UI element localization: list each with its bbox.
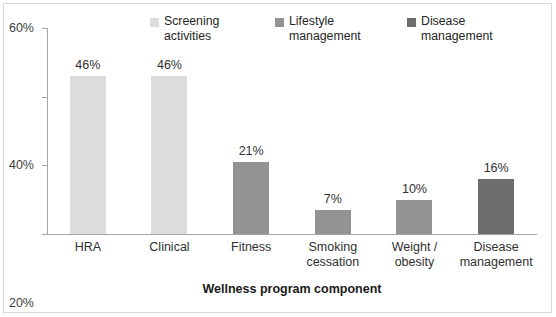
bar-value-label: 10% [402,182,427,196]
bar-slot: 16% [455,28,537,234]
legend-swatch-disease-management [407,18,416,27]
bar[interactable] [151,76,187,234]
x-axis-line [47,234,537,235]
bar-chart: Screening activities Lifestyle managemen… [0,0,556,317]
x-axis-labels: HRAClinicalFitnessSmoking cessationWeigh… [47,240,537,280]
bar-value-label: 46% [75,58,100,72]
bar-value-label: 21% [239,144,264,158]
bar[interactable] [396,200,432,234]
bar-slot: 46% [129,28,211,234]
y-axis-tick: 0% [42,234,47,235]
y-axis-tick-label: 20% [9,296,34,310]
bar-slot: 7% [292,28,374,234]
bar-slot: 21% [210,28,292,234]
bar[interactable] [233,162,269,234]
bars-layer: 46%46%21%7%10%16% [47,28,537,234]
bar-value-label: 16% [484,161,509,175]
bar-slot: 46% [47,28,129,234]
x-axis-category-label: Disease management [455,240,537,270]
x-axis-category-label: Smoking cessation [292,240,374,270]
y-axis-tick-label: 60% [9,21,34,35]
x-axis-category-label: Clinical [129,240,211,255]
bar-value-label: 46% [157,58,182,72]
plot-area: 0%20%40%60% 46%46%21%7%10%16% [47,28,537,234]
bar[interactable] [70,76,106,234]
bar-value-label: 7% [324,192,342,206]
x-axis-category-label: Weight / obesity [374,240,456,270]
x-axis-category-label: Fitness [210,240,292,255]
bar[interactable] [315,210,351,234]
bar[interactable] [478,179,514,234]
x-axis-category-label: HRA [47,240,129,255]
legend-swatch-lifestyle-management [275,18,284,27]
legend-swatch-screening-activities [150,18,159,27]
y-axis-tick-label: 40% [9,158,34,172]
bar-slot: 10% [374,28,456,234]
x-axis-title: Wellness program component [47,282,537,296]
